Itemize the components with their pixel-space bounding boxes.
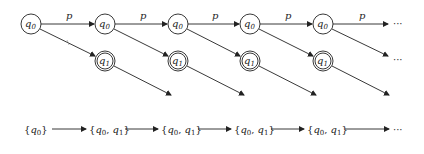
state-q0: q0 — [313, 14, 333, 34]
state-q0: q0 — [95, 14, 115, 34]
subset-sequence: {q0} {q0, q1} {q0, q1} {q0, q1} {q0, q1}… — [24, 124, 403, 137]
set-label: {q0, q1} — [89, 124, 130, 137]
state-q0: q0 — [240, 14, 260, 34]
state-q0: q0 — [168, 14, 188, 34]
accepting-state-q1: q1 — [168, 51, 188, 71]
set-label: {q0, q1} — [161, 124, 202, 137]
edge-label-p: p — [285, 10, 292, 21]
ellipsis-top: ··· — [393, 18, 403, 29]
edge-label-p: p — [212, 10, 219, 21]
edge-label-p: p — [140, 10, 147, 21]
accepting-state-q1: q1 — [95, 51, 115, 71]
state-q0: q0 — [21, 14, 41, 34]
ellipsis-middle: ··· — [393, 54, 403, 65]
accepting-state-q1: q1 — [240, 51, 260, 71]
automaton-diagram: p p p p p q0 q0 q0 — [0, 0, 424, 154]
diagonal-edges-q0 — [40, 29, 388, 56]
accepting-state-q1: q1 — [313, 51, 333, 71]
set-label: {q0, q1} — [234, 124, 275, 137]
ellipsis-bottom: ··· — [393, 124, 403, 135]
set-label: {q0} — [24, 124, 48, 137]
edge-label-p: p — [66, 10, 73, 21]
set-label: {q0, q1} — [307, 124, 348, 137]
q1-nodes: q1 q1 q1 q1 — [95, 51, 333, 71]
edge-label-p: p — [359, 10, 366, 21]
